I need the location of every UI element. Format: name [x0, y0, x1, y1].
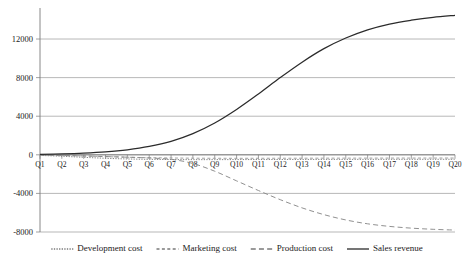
line-chart: -8000-400004000800012000 Q1Q2Q3Q4Q5Q6Q7Q…	[0, 0, 474, 267]
x-tick-label: Q2	[57, 160, 66, 169]
x-tick-label: Q9	[210, 160, 219, 169]
x-tick-label: Q6	[145, 160, 154, 169]
x-tick-label: Q12	[274, 160, 287, 169]
x-tick-label: Q1	[35, 160, 44, 169]
y-tick-label: -8000	[13, 227, 33, 237]
gridlines	[40, 39, 455, 232]
y-tick-label: -4000	[13, 188, 33, 198]
chart-container: -8000-400004000800012000 Q1Q2Q3Q4Q5Q6Q7Q…	[0, 0, 474, 267]
chart-legend: Development costMarketing costProduction…	[51, 243, 422, 253]
x-tick-label: Q4	[101, 160, 110, 169]
series-line-sales-revenue	[40, 15, 455, 154]
y-tick-label: 4000	[16, 111, 33, 121]
y-tick-label: 0	[29, 150, 33, 160]
x-tick-label: Q14	[317, 160, 330, 169]
x-tick-label: Q13	[296, 160, 309, 169]
x-tick-label: Q3	[79, 160, 88, 169]
x-tick-label: Q16	[361, 160, 374, 169]
y-tick-label: 8000	[16, 73, 33, 83]
x-tick-label: Q5	[123, 160, 132, 169]
y-axis: -8000-400004000800012000	[12, 8, 40, 237]
x-tick-label: Q17	[383, 160, 396, 169]
x-tick-label: Q10	[230, 160, 243, 169]
x-tick-label: Q20	[448, 160, 461, 169]
legend-label-development-cost: Development cost	[77, 243, 143, 253]
series-lines	[40, 15, 455, 230]
x-tick-label: Q7	[166, 160, 175, 169]
legend-label-production-cost: Production cost	[277, 243, 334, 253]
x-tick-label: Q11	[252, 160, 265, 169]
x-tick-label: Q15	[339, 160, 352, 169]
x-axis: Q1Q2Q3Q4Q5Q6Q7Q8Q9Q10Q11Q12Q13Q14Q15Q16Q…	[35, 155, 461, 169]
legend-label-sales-revenue: Sales revenue	[373, 243, 423, 253]
x-tick-label: Q19	[427, 160, 440, 169]
y-tick-label: 12000	[12, 34, 33, 44]
legend-label-marketing-cost: Marketing cost	[183, 243, 238, 253]
x-tick-label: Q18	[405, 160, 418, 169]
